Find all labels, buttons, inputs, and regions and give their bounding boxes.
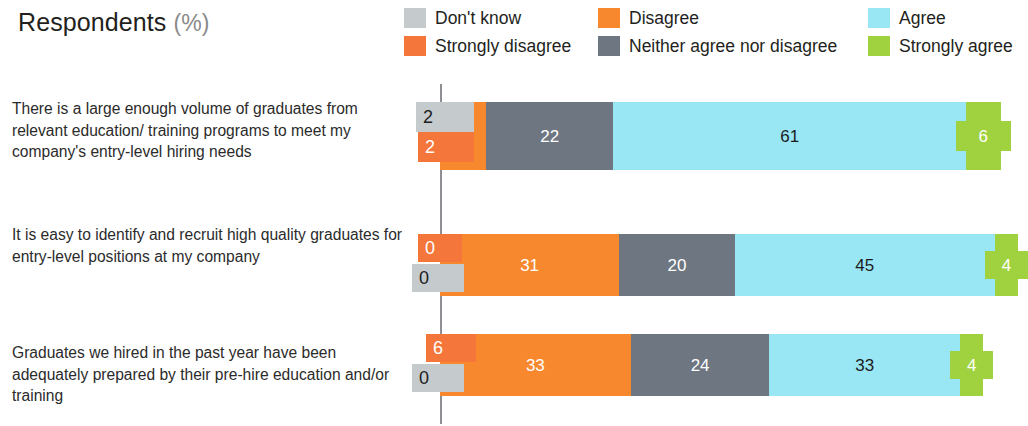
chart-header: Respondents (%) <box>18 8 398 52</box>
segment-dont-know-value: 2 <box>423 108 433 126</box>
page-title: Respondents (%) <box>18 8 398 37</box>
bar-row: It is easy to identify and recruit high … <box>0 204 1026 300</box>
legend-item-label: Strongly disagree <box>435 36 571 56</box>
segment-agree-value: 45 <box>855 257 874 274</box>
segment-dont-know-value: 0 <box>419 369 429 387</box>
segment-dont-know[interactable]: 0 <box>412 364 464 392</box>
bar-row: There is a large enough volume of gradua… <box>0 84 1026 184</box>
segment-agree[interactable]: 61 <box>613 102 966 170</box>
segment-strongly-agree-value-overlay: 4 <box>967 357 976 374</box>
bar-row: Graduates we hired in the past year have… <box>0 316 1026 426</box>
segment-disagree-value: 31 <box>520 257 539 274</box>
bar-canvas: 822616622 <box>0 84 1026 184</box>
chart-legend: Don't knowStrongly disagreeDisagreeNeith… <box>404 8 1018 60</box>
segment-dont-know[interactable]: 2 <box>416 102 474 132</box>
segment-neither-agree-nor-disagree[interactable]: 22 <box>486 102 613 170</box>
segment-strongly-agree-value-overlay: 4 <box>1002 257 1011 274</box>
segment-agree-value: 61 <box>780 128 799 145</box>
segment-strongly-disagree-value: 0 <box>425 239 435 257</box>
segment-agree[interactable]: 33 <box>769 334 960 396</box>
bar-canvas: 3324334460 <box>0 316 1026 426</box>
segment-strongly-disagree[interactable]: 0 <box>418 234 462 262</box>
legend-item-label: Strongly agree <box>899 36 1013 56</box>
legend-item-strongly-agree[interactable]: Strongly agree <box>868 36 1013 56</box>
segment-neither-agree-nor-disagree[interactable]: 20 <box>619 234 735 296</box>
chart-title-text: Respondents <box>18 8 166 36</box>
legend-swatch-icon <box>598 36 620 56</box>
segment-neither-agree-nor-disagree-value: 20 <box>668 257 687 274</box>
legend-item-agree[interactable]: Agree <box>868 8 946 28</box>
segment-neither-agree-nor-disagree[interactable]: 24 <box>631 334 770 396</box>
segment-neither-agree-nor-disagree-value: 24 <box>691 357 710 374</box>
segment-strongly-agree-label-holder: 4 <box>960 334 983 396</box>
legend-swatch-icon <box>404 36 426 56</box>
legend-swatch-icon <box>868 36 890 56</box>
legend-item-don-t-know[interactable]: Don't know <box>404 8 521 28</box>
segment-strongly-disagree-value: 6 <box>433 339 443 357</box>
segment-strongly-agree-label-holder: 6 <box>966 102 1001 170</box>
segment-strongly-agree-value-overlay: 6 <box>979 128 988 145</box>
legend-item-disagree[interactable]: Disagree <box>598 8 699 28</box>
segment-agree-value: 33 <box>855 357 874 374</box>
segment-disagree[interactable]: 31 <box>440 234 619 296</box>
bar-canvas: 3120454400 <box>0 204 1026 300</box>
segment-strongly-disagree[interactable]: 6 <box>426 334 476 362</box>
legend-item-label: Agree <box>899 8 946 28</box>
segment-agree[interactable]: 45 <box>735 234 995 296</box>
segment-strongly-disagree[interactable]: 2 <box>418 132 474 162</box>
legend-item-strongly-disagree[interactable]: Strongly disagree <box>404 36 571 56</box>
legend-swatch-icon <box>868 8 890 28</box>
chart-plot-area: There is a large enough volume of gradua… <box>0 84 1026 426</box>
chart-title-unit: (%) <box>173 10 209 36</box>
legend-swatch-icon <box>404 8 426 28</box>
legend-item-label: Disagree <box>629 8 699 28</box>
segment-neither-agree-nor-disagree-value: 22 <box>540 128 559 145</box>
segment-strongly-agree-label-holder: 4 <box>995 234 1018 296</box>
legend-item-label: Don't know <box>435 8 521 28</box>
legend-item-neither-agree-nor-disagree[interactable]: Neither agree nor disagree <box>598 36 837 56</box>
legend-item-label: Neither agree nor disagree <box>629 36 837 56</box>
segment-disagree-value: 33 <box>526 357 545 374</box>
legend-swatch-icon <box>598 8 620 28</box>
segment-dont-know-value: 0 <box>419 269 429 287</box>
segment-dont-know[interactable]: 0 <box>412 264 464 292</box>
segment-strongly-disagree-value: 2 <box>425 138 435 156</box>
